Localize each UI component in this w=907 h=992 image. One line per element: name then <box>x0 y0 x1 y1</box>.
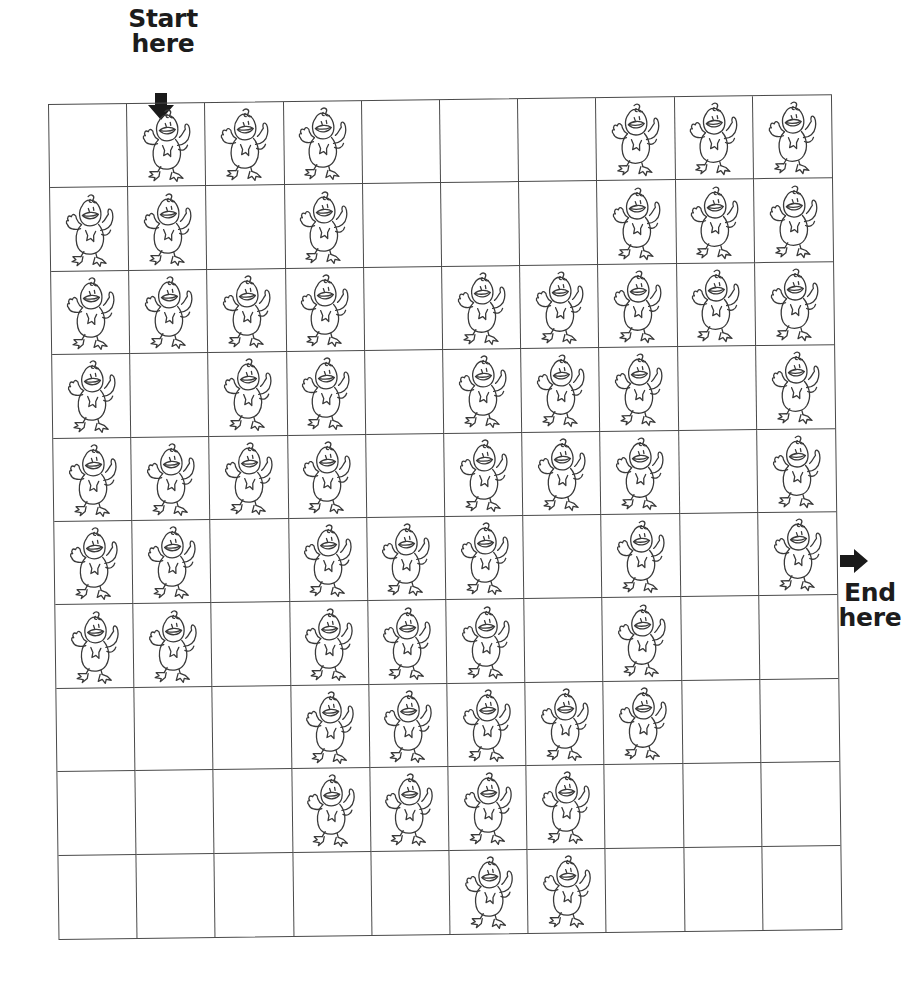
maze-cell-empty[interactable] <box>293 852 372 936</box>
maze-cell-duck[interactable] <box>598 264 677 348</box>
maze-cell-duck[interactable] <box>596 97 675 181</box>
maze-cell-empty[interactable] <box>363 183 442 267</box>
maze-cell-duck[interactable] <box>55 604 134 688</box>
maze-cell-empty[interactable] <box>136 770 215 854</box>
maze-cell-duck[interactable] <box>205 102 284 186</box>
maze-cell-duck[interactable] <box>443 349 522 433</box>
maze-cell-duck[interactable] <box>368 600 447 684</box>
maze-cell-empty[interactable] <box>761 762 840 846</box>
maze-cell-duck[interactable] <box>370 767 449 851</box>
maze-cell-duck[interactable] <box>127 103 206 187</box>
maze-cell-duck[interactable] <box>367 517 446 601</box>
maze-cell-duck[interactable] <box>290 601 369 685</box>
maze-cell-duck[interactable] <box>758 512 837 596</box>
maze-cell-empty[interactable] <box>519 181 598 265</box>
maze-cell-duck[interactable] <box>597 181 676 265</box>
maze-cell-duck[interactable] <box>448 766 527 850</box>
maze-cell-duck[interactable] <box>129 270 208 354</box>
maze-cell-empty[interactable] <box>523 515 602 599</box>
maze-cell-empty[interactable] <box>760 679 839 763</box>
maze-cell-duck[interactable] <box>756 345 835 429</box>
maze-cell-empty[interactable] <box>214 769 293 853</box>
maze-cell-duck[interactable] <box>287 351 366 435</box>
maze-cell-empty[interactable] <box>57 771 136 855</box>
maze-cell-duck[interactable] <box>133 603 212 687</box>
maze-cell-duck[interactable] <box>446 599 525 683</box>
maze-cell-empty[interactable] <box>58 855 137 939</box>
maze-cell-duck[interactable] <box>600 347 679 431</box>
maze-cell-duck[interactable] <box>53 438 132 522</box>
maze-cell-duck[interactable] <box>603 597 682 681</box>
maze-cell-duck[interactable] <box>131 437 210 521</box>
maze-cell-empty[interactable] <box>762 846 841 930</box>
maze-cell-duck[interactable] <box>676 180 755 264</box>
maze-cell-duck[interactable] <box>521 348 600 432</box>
maze-cell-empty[interactable] <box>364 267 443 351</box>
maze-cell-duck[interactable] <box>677 263 756 347</box>
maze-cell-empty[interactable] <box>759 596 838 680</box>
maze-cell-empty[interactable] <box>135 687 214 771</box>
maze-cell-duck[interactable] <box>522 432 601 516</box>
maze-cell-duck[interactable] <box>527 765 606 849</box>
maze-cell-empty[interactable] <box>213 686 292 770</box>
maze-cell-duck[interactable] <box>520 265 599 349</box>
maze-cell-duck[interactable] <box>753 95 832 179</box>
maze-cell-empty[interactable] <box>212 602 291 686</box>
maze-cell-empty[interactable] <box>678 346 757 430</box>
maze-cell-duck[interactable] <box>442 266 521 350</box>
maze-cell-empty[interactable] <box>211 519 290 603</box>
maze-cell-duck[interactable] <box>284 101 363 185</box>
maze-cell-empty[interactable] <box>130 353 209 437</box>
maze-cell-duck[interactable] <box>604 681 683 765</box>
maze-cell-duck[interactable] <box>52 354 131 438</box>
maze-cell-duck[interactable] <box>209 352 288 436</box>
maze-cell-duck[interactable] <box>292 768 371 852</box>
maze-cell-duck[interactable] <box>449 850 528 934</box>
maze-cell-duck[interactable] <box>525 682 604 766</box>
maze-cell-duck[interactable] <box>675 96 754 180</box>
maze-cell-empty[interactable] <box>441 182 520 266</box>
maze-cell-empty[interactable] <box>518 98 597 182</box>
maze-cell-empty[interactable] <box>680 513 759 597</box>
maze-cell-empty[interactable] <box>366 434 445 518</box>
maze-cell-duck[interactable] <box>285 184 364 268</box>
maze-cell-duck[interactable] <box>445 516 524 600</box>
maze-cell-empty[interactable] <box>605 764 684 848</box>
maze-cell-empty[interactable] <box>679 430 758 514</box>
maze-cell-empty[interactable] <box>371 851 450 935</box>
maze-cell-duck[interactable] <box>50 187 129 271</box>
maze-cell-empty[interactable] <box>137 854 216 938</box>
maze-cell-duck[interactable] <box>289 518 368 602</box>
maze-cell-duck[interactable] <box>528 849 607 933</box>
maze-cell-duck[interactable] <box>54 521 133 605</box>
maze-cell-duck[interactable] <box>207 269 286 353</box>
maze-cell-duck[interactable] <box>757 429 836 513</box>
maze-cell-duck[interactable] <box>288 435 367 519</box>
maze-cell-empty[interactable] <box>362 100 441 184</box>
maze-cell-duck[interactable] <box>286 268 365 352</box>
maze-cell-empty[interactable] <box>683 763 762 847</box>
maze-cell-duck[interactable] <box>291 685 370 769</box>
maze-cell-empty[interactable] <box>524 598 603 682</box>
maze-cell-duck[interactable] <box>602 514 681 598</box>
maze-cell-empty[interactable] <box>440 99 519 183</box>
maze-cell-duck[interactable] <box>128 186 207 270</box>
maze-cell-empty[interactable] <box>681 596 760 680</box>
maze-cell-empty[interactable] <box>365 350 444 434</box>
maze-cell-empty[interactable] <box>215 853 294 937</box>
maze-cell-duck[interactable] <box>369 684 448 768</box>
maze-cell-duck[interactable] <box>132 520 211 604</box>
maze-cell-duck[interactable] <box>601 431 680 515</box>
maze-cell-empty[interactable] <box>684 847 763 931</box>
maze-cell-duck[interactable] <box>447 683 526 767</box>
maze-cell-empty[interactable] <box>206 185 285 269</box>
maze-cell-duck[interactable] <box>754 179 833 263</box>
maze-cell-duck[interactable] <box>51 271 130 355</box>
maze-cell-duck[interactable] <box>210 436 289 520</box>
maze-cell-duck[interactable] <box>755 262 834 346</box>
maze-cell-empty[interactable] <box>49 104 128 188</box>
maze-cell-empty[interactable] <box>606 848 685 932</box>
maze-cell-empty[interactable] <box>682 680 761 764</box>
maze-cell-empty[interactable] <box>56 688 135 772</box>
maze-cell-duck[interactable] <box>444 433 523 517</box>
